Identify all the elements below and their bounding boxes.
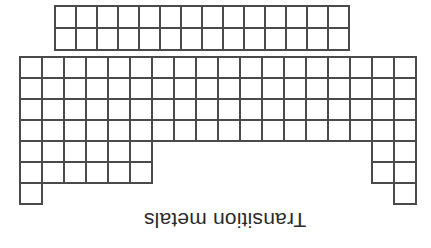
periodic-cell — [152, 57, 174, 78]
inner-series-cell — [118, 6, 139, 28]
periodic-cell — [86, 120, 108, 141]
periodic-cell — [130, 99, 152, 120]
periodic-cell — [394, 120, 416, 141]
periodic-table-svg: Transition metals — [0, 0, 431, 248]
periodic-cell — [130, 162, 152, 183]
periodic-cell — [20, 57, 42, 78]
periodic-cell — [196, 120, 218, 141]
periodic-cell — [42, 78, 64, 99]
periodic-cell — [372, 78, 394, 99]
inner-series-cell — [118, 28, 139, 50]
periodic-cell — [64, 57, 86, 78]
periodic-cell — [130, 78, 152, 99]
periodic-cell — [328, 99, 350, 120]
periodic-cell — [328, 120, 350, 141]
periodic-cell — [108, 162, 130, 183]
periodic-cell — [284, 99, 306, 120]
periodic-cell — [20, 120, 42, 141]
periodic-cell — [174, 99, 196, 120]
inner-series-cell — [244, 28, 265, 50]
periodic-cell — [20, 78, 42, 99]
transition-metals-label: Transition metals — [144, 209, 307, 232]
periodic-cell — [108, 57, 130, 78]
periodic-cell — [240, 57, 262, 78]
periodic-cell — [20, 99, 42, 120]
periodic-cell — [42, 57, 64, 78]
periodic-cell — [86, 99, 108, 120]
periodic-cell — [372, 120, 394, 141]
periodic-cell — [64, 99, 86, 120]
periodic-cell — [108, 141, 130, 162]
periodic-cell — [262, 78, 284, 99]
inner-series-cell — [181, 6, 202, 28]
periodic-cell — [328, 57, 350, 78]
periodic-cell — [372, 57, 394, 78]
inner-series-cell — [328, 28, 349, 50]
inner-series-cell — [265, 28, 286, 50]
periodic-cell — [306, 57, 328, 78]
periodic-cell — [152, 99, 174, 120]
periodic-cell — [196, 78, 218, 99]
periodic-cell — [218, 78, 240, 99]
periodic-cell — [306, 120, 328, 141]
periodic-cell — [262, 99, 284, 120]
periodic-cell — [350, 120, 372, 141]
periodic-cell — [196, 99, 218, 120]
inner-series-cell — [307, 28, 328, 50]
periodic-cell — [86, 162, 108, 183]
periodic-cell — [64, 78, 86, 99]
periodic-cell — [284, 120, 306, 141]
periodic-cell — [130, 120, 152, 141]
periodic-cell — [306, 99, 328, 120]
periodic-cell — [86, 57, 108, 78]
inner-series-cell — [286, 6, 307, 28]
periodic-cell — [350, 78, 372, 99]
inner-series-cell — [265, 6, 286, 28]
periodic-cell — [152, 120, 174, 141]
inner-series-cell — [76, 28, 97, 50]
periodic-cell — [64, 162, 86, 183]
inner-series-cell — [223, 6, 244, 28]
periodic-cell — [42, 99, 64, 120]
periodic-cell — [108, 78, 130, 99]
periodic-cell — [42, 141, 64, 162]
periodic-cell — [174, 57, 196, 78]
periodic-cell — [64, 141, 86, 162]
lanthanide-actinide-strip — [55, 6, 349, 50]
periodic-cell — [174, 120, 196, 141]
periodic-cell — [218, 120, 240, 141]
periodic-cell — [240, 78, 262, 99]
periodic-cell — [42, 162, 64, 183]
inner-series-cell — [181, 28, 202, 50]
periodic-cell — [20, 183, 42, 204]
periodic-cell — [284, 57, 306, 78]
inner-series-cell — [286, 28, 307, 50]
periodic-cell — [86, 78, 108, 99]
inner-series-cell — [139, 6, 160, 28]
inner-series-cell — [223, 28, 244, 50]
periodic-cell — [64, 120, 86, 141]
periodic-cell — [372, 99, 394, 120]
periodic-cell — [394, 57, 416, 78]
inner-series-cell — [97, 28, 118, 50]
periodic-cell — [174, 78, 196, 99]
periodic-cell — [284, 78, 306, 99]
periodic-cell — [394, 78, 416, 99]
periodic-cell — [218, 99, 240, 120]
inner-series-cell — [97, 6, 118, 28]
inner-series-cell — [328, 6, 349, 28]
transition-metals-label-group: Transition metals — [144, 209, 307, 232]
periodic-cell — [240, 120, 262, 141]
periodic-cell — [86, 141, 108, 162]
inner-series-cell — [202, 6, 223, 28]
periodic-cell — [152, 78, 174, 99]
periodic-cell — [394, 183, 416, 204]
inner-series-cell — [139, 28, 160, 50]
periodic-cell — [394, 99, 416, 120]
inner-series-cell — [160, 6, 181, 28]
periodic-cell — [42, 120, 64, 141]
periodic-cell — [372, 162, 394, 183]
inner-series-cell — [55, 6, 76, 28]
inner-series-cell — [244, 6, 265, 28]
periodic-cell — [328, 78, 350, 99]
